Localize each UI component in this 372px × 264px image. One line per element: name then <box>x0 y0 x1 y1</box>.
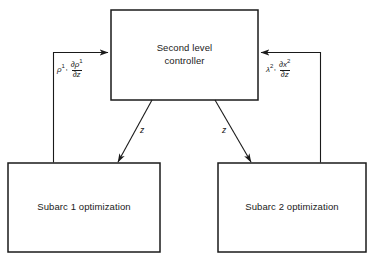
box-subarc-1-optimization <box>8 163 160 252</box>
block-diagram: Second level controller Subarc 1 optimiz… <box>0 0 372 264</box>
arrow-controller-to-subarc-1 <box>118 100 152 162</box>
diagram-canvas <box>0 0 372 264</box>
box-subarc-2-optimization <box>218 163 366 252</box>
arrow-subarc-1-to-controller <box>54 53 109 163</box>
arrow-controller-to-subarc-2 <box>215 100 251 162</box>
arrow-subarc-2-to-controller <box>261 53 321 163</box>
box-second-level-controller <box>111 10 258 100</box>
